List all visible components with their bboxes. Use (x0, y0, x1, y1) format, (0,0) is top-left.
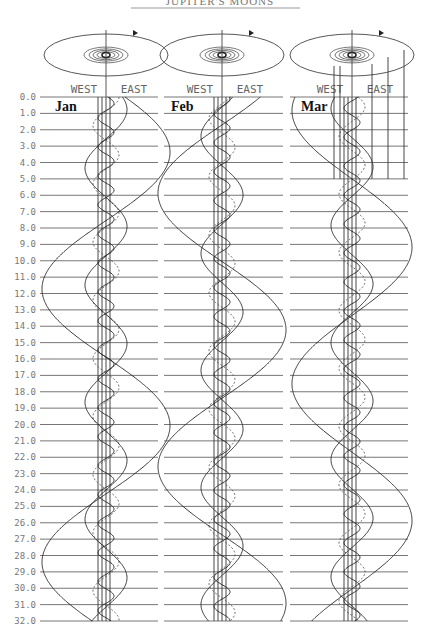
y-tick-label: 16.0 (14, 354, 36, 364)
y-tick-label: 31.0 (14, 600, 36, 610)
y-tick-label: 26.0 (14, 518, 36, 528)
y-tick-label: 18.0 (14, 387, 36, 397)
orbit-direction-arrow-icon (379, 30, 384, 36)
orbit-diagram-jan (44, 30, 168, 97)
y-tick-label: 1.0 (20, 108, 36, 118)
east-label: EAST (237, 83, 264, 96)
y-tick-label: 29.0 (14, 567, 36, 577)
y-tick-label: 3.0 (20, 141, 36, 151)
y-tick-label: 6.0 (20, 190, 36, 200)
y-tick-label: 21.0 (14, 436, 36, 446)
y-tick-label: 19.0 (14, 403, 36, 413)
orbit-diagrams (44, 30, 414, 97)
jupiter-moons-chart: 0.01.02.03.04.05.06.07.08.09.010.011.012… (0, 0, 427, 642)
y-tick-label: 30.0 (14, 583, 36, 593)
west-label: WEST (187, 83, 214, 96)
day-grid (40, 97, 408, 621)
west-label: WEST (71, 83, 98, 96)
y-tick-label: 4.0 (20, 158, 36, 168)
y-tick-label: 32.0 (14, 616, 36, 626)
y-tick-label: 9.0 (20, 239, 36, 249)
orbit-direction-arrow-icon (133, 30, 138, 36)
orbit-direction-arrow-icon (249, 30, 254, 36)
y-tick-label: 2.0 (20, 125, 36, 135)
east-label: EAST (367, 83, 394, 96)
y-tick-label: 7.0 (20, 207, 36, 217)
y-tick-label: 13.0 (14, 305, 36, 315)
y-tick-label: 22.0 (14, 452, 36, 462)
orbit-diagram-feb (160, 30, 284, 97)
orbit-diagram-mar (290, 30, 414, 97)
y-tick-label: 27.0 (14, 534, 36, 544)
y-tick-label: 28.0 (14, 551, 36, 561)
y-tick-label: 14.0 (14, 321, 36, 331)
y-tick-label: 11.0 (14, 272, 36, 282)
y-tick-label: 25.0 (14, 501, 36, 511)
y-tick-label: 15.0 (14, 338, 36, 348)
y-tick-label: 24.0 (14, 485, 36, 495)
y-tick-label: 23.0 (14, 469, 36, 479)
y-tick-label: 10.0 (14, 256, 36, 266)
month-label-jan: Jan (55, 99, 77, 114)
y-tick-label: 12.0 (14, 289, 36, 299)
east-label: EAST (121, 83, 148, 96)
month-panels: WESTEASTJanWESTEASTFebWESTEASTMar (42, 50, 412, 621)
y-tick-label: 20.0 (14, 420, 36, 430)
y-tick-label: 8.0 (20, 223, 36, 233)
y-axis-ticks: 0.01.02.03.04.05.06.07.08.09.010.011.012… (14, 92, 36, 626)
month-label-mar: Mar (301, 99, 327, 114)
y-tick-label: 17.0 (14, 370, 36, 380)
y-tick-label: 0.0 (20, 92, 36, 102)
month-label-feb: Feb (171, 99, 194, 114)
y-tick-label: 5.0 (20, 174, 36, 184)
